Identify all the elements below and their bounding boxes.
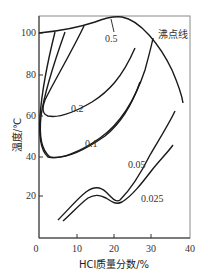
y-tick-label: 100	[21, 27, 36, 38]
curve-0.025	[63, 145, 173, 221]
x-tick-label: 0	[34, 243, 39, 254]
x-ticks: 0 10 20 30 40	[34, 234, 196, 254]
y-tick-label: 40	[26, 151, 36, 162]
curve-label-0.025: 0.025	[141, 193, 164, 204]
curve-label-boiling: 沸点线	[158, 28, 188, 40]
curve-label-0.5: 0.5	[105, 33, 118, 44]
y-tick-label: 60	[26, 110, 36, 121]
x-tick-label: 40	[185, 243, 195, 254]
label-leader-line	[111, 19, 114, 32]
y-tick-label: 20	[26, 190, 36, 201]
chart: 100 80 60 40 20 0 10 20 30 40 HCl质量分数/% …	[0, 0, 208, 279]
curve-label-0.1: 0.1	[85, 138, 98, 149]
x-tick-label: 30	[146, 243, 156, 254]
x-axis-label: HCl质量分数/%	[79, 258, 149, 270]
y-tick-label: 80	[26, 69, 36, 80]
curve-label-0.2: 0.2	[71, 103, 84, 114]
x-tick-label: 20	[109, 243, 119, 254]
curve-label-0.05: 0.05	[128, 159, 146, 170]
curve-0.2	[43, 26, 135, 116]
x-tick-label: 10	[72, 243, 82, 254]
y-axis-label: 温度/℃	[11, 118, 23, 153]
